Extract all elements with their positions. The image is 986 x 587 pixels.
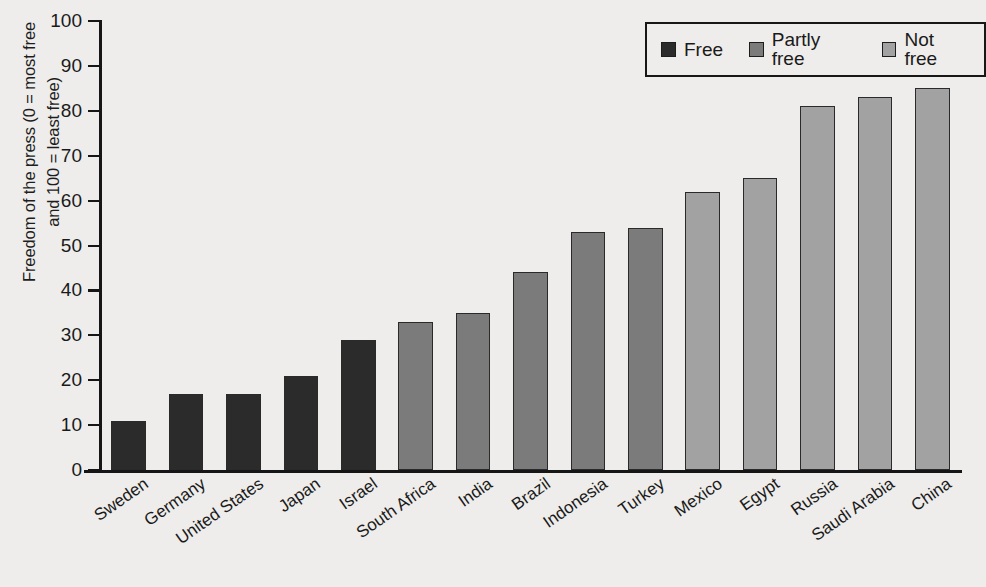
y-tick-mark [88,20,99,22]
x-tick-label: China [908,474,956,516]
legend: FreePartly freeNot free [645,22,986,77]
y-tick-mark [88,110,99,112]
y-tick-label: 40 [36,280,82,299]
legend-swatch-icon [882,42,897,57]
legend-swatch-icon [661,42,676,57]
y-tick-mark [88,155,99,157]
bar [111,421,145,470]
bar [915,88,949,470]
x-tick-label: Israel [336,474,382,514]
legend-item[interactable]: Partly free [749,30,856,68]
bar [743,178,777,470]
y-tick-label: 80 [36,101,82,120]
legend-item[interactable]: Free [661,40,723,59]
y-tick-mark [88,469,99,471]
legend-label: Free [684,40,723,59]
y-tick-mark [88,424,99,426]
y-tick-mark [88,379,99,381]
y-tick-mark [88,200,99,202]
y-tick-label: 100 [36,11,82,30]
x-tick-label: India [455,474,497,512]
y-tick-mark [88,289,99,291]
legend-label: Not free [904,30,970,68]
bar [800,106,834,470]
y-tick-label: 10 [36,415,82,434]
y-tick-label: 50 [36,236,82,255]
x-tick-label: Japan [275,474,324,517]
x-tick-label: Egypt [736,474,783,515]
y-tick-label: 30 [36,325,82,344]
bar [398,322,432,470]
y-tick-mark [88,65,99,67]
y-tick-label: 90 [36,56,82,75]
bar [685,192,719,470]
legend-item[interactable]: Not free [882,30,970,68]
y-axis-label: Freedom of the press (0 = most free and … [18,0,66,362]
y-tick-label: 70 [36,146,82,165]
bars-layer [100,21,961,470]
legend-swatch-icon [749,42,764,57]
y-tick-mark [88,245,99,247]
bar-chart: Freedom of the press (0 = most free and … [0,0,986,587]
bar [571,232,605,470]
bar [858,97,892,470]
y-tick-label: 20 [36,370,82,389]
y-tick-mark [88,334,99,336]
legend-label: Partly free [772,30,856,68]
x-axis-labels: SwedenGermanyUnited StatesJapanIsraelSou… [100,474,961,587]
x-tick-label: Brazil [508,474,554,515]
y-tick-label: 0 [36,460,82,479]
y-tick-label: 60 [36,191,82,210]
bar [513,272,547,470]
